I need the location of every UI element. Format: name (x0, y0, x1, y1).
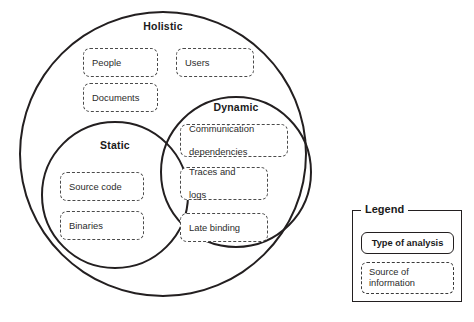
legend-title: Legend (361, 203, 408, 216)
source-box-traces-and-logs: Traces andlogs (180, 167, 268, 200)
source-box-late-binding: Late binding (180, 213, 268, 242)
comm-line-2: dependencies (189, 146, 254, 158)
traces-line-2: logs (189, 189, 236, 201)
legend-source-line-2: information (369, 278, 415, 288)
legend-key-type-of-analysis: Type of analysis (361, 232, 454, 254)
circle-label-holistic: Holistic (0, 20, 326, 32)
venn-diagram: Holistic Static Dynamic People Users Doc… (0, 0, 474, 322)
legend-source-line-1: Source of (369, 267, 409, 277)
circle-label-static: Static (41, 139, 189, 151)
source-box-late-binding-label: Late binding (189, 222, 240, 234)
circle-label-dynamic: Dynamic (160, 101, 312, 113)
source-box-documents: Documents (83, 83, 158, 112)
source-box-source-code: Source code (60, 172, 144, 201)
source-box-communication-dependencies: Communicationdependencies (180, 124, 288, 157)
source-box-binaries-label: Binaries (69, 220, 103, 232)
source-box-binaries: Binaries (60, 211, 144, 240)
comm-line-1: Communication (189, 123, 254, 135)
legend-key-source-of-information-label: Source ofinformation (369, 267, 415, 290)
source-box-documents-label: Documents (92, 92, 139, 104)
legend-key-source-of-information: Source ofinformation (361, 262, 454, 294)
source-box-people: People (83, 48, 158, 77)
legend: Legend Type of analysis Source ofinforma… (352, 210, 462, 302)
source-box-communication-dependencies-label: Communicationdependencies (189, 123, 254, 158)
source-box-source-code-label: Source code (69, 181, 122, 193)
source-box-users-label: Users (185, 57, 209, 69)
legend-key-type-of-analysis-label: Type of analysis (372, 238, 444, 248)
source-box-people-label: People (92, 57, 121, 69)
traces-line-1: Traces and (189, 166, 236, 178)
source-box-users: Users (176, 48, 254, 77)
source-box-traces-and-logs-label: Traces andlogs (189, 166, 236, 201)
